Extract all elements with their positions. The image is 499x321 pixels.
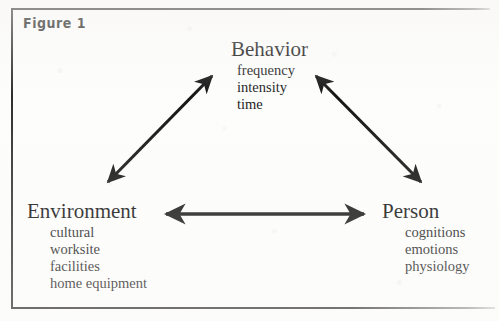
node-environment-title: Environment	[27, 200, 147, 222]
list-item: facilities	[50, 258, 147, 275]
node-behavior-title: Behavior	[231, 38, 308, 60]
list-item: intensity	[237, 79, 308, 96]
figure-canvas: Figure 1 Behavior frequency intensity ti…	[0, 0, 499, 321]
arrow-environment-behavior	[108, 76, 212, 182]
list-item: physiology	[405, 258, 469, 275]
figure-caption-label: Figure 1	[23, 15, 86, 31]
list-item: worksite	[50, 241, 147, 258]
node-behavior-list: frequency intensity time	[237, 62, 308, 113]
list-item: home equipment	[50, 275, 147, 292]
list-item: frequency	[237, 62, 308, 79]
list-item: cognitions	[405, 224, 469, 241]
node-person-title: Person	[382, 200, 469, 222]
list-item: time	[237, 96, 308, 113]
node-environment: Environment cultural worksite facilities…	[27, 200, 147, 292]
list-item: emotions	[405, 241, 469, 258]
node-environment-list: cultural worksite facilities home equipm…	[50, 224, 147, 292]
node-behavior: Behavior frequency intensity time	[231, 38, 308, 113]
arrow-behavior-person	[316, 76, 421, 182]
list-item: cultural	[50, 224, 147, 241]
node-person: Person cognitions emotions physiology	[382, 200, 469, 275]
node-person-list: cognitions emotions physiology	[405, 224, 469, 275]
